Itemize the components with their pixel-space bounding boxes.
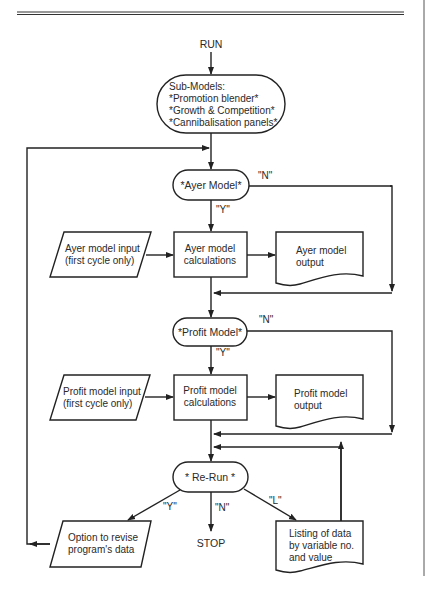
ayer-no-label: "N" xyxy=(258,170,273,181)
svg-text:Option to revise: Option to revise xyxy=(68,532,138,543)
svg-text:output: output xyxy=(294,400,322,411)
profit-input: Profit model input (first cycle only) xyxy=(50,375,150,420)
rerun-n-label: "N" xyxy=(215,502,230,513)
svg-text:Ayer model: Ayer model xyxy=(296,245,346,256)
ayer-input: Ayer model input (first cycle only) xyxy=(50,232,151,277)
start-label: RUN xyxy=(200,38,223,50)
svg-text:Profit model: Profit model xyxy=(183,385,236,396)
data-listing-output: Listing of data by variable no. and valu… xyxy=(276,521,363,573)
flowchart: RUN Sub-Models: *Promotion blender* *Gro… xyxy=(0,0,428,594)
svg-text:Profit model: Profit model xyxy=(294,388,347,399)
svg-text:*Profit Model*: *Profit Model* xyxy=(178,326,242,338)
svg-text:*Cannibalisation panels*: *Cannibalisation panels* xyxy=(169,117,278,128)
svg-text:Profit model input: Profit model input xyxy=(63,386,141,397)
svg-text:*Growth & Competition*: *Growth & Competition* xyxy=(169,105,275,116)
svg-text:*Ayer Model*: *Ayer Model* xyxy=(180,179,241,191)
svg-text:Ayer model: Ayer model xyxy=(185,243,235,254)
svg-text:program's data: program's data xyxy=(68,544,135,555)
submodels-terminal: Sub-Models: *Promotion blender* *Growth … xyxy=(157,75,285,133)
svg-text:* Re-Run *: * Re-Run * xyxy=(185,471,235,483)
header-rule xyxy=(17,12,404,15)
rerun-l-label: "L" xyxy=(269,495,282,506)
profit-decision: *Profit Model* xyxy=(173,318,247,346)
stop-label: STOP xyxy=(197,537,225,549)
revise-data-option: Option to revise program's data xyxy=(50,521,151,567)
profit-calculations: Profit model calculations xyxy=(174,375,247,420)
svg-text:by variable no.: by variable no. xyxy=(289,540,354,551)
svg-text:Sub-Models:: Sub-Models: xyxy=(169,81,225,92)
svg-text:calculations: calculations xyxy=(184,397,236,408)
profit-output: Profit model output xyxy=(276,375,363,429)
profit-yes-label: "Y" xyxy=(216,347,230,358)
svg-text:output: output xyxy=(296,257,324,268)
ayer-decision: *Ayer Model* xyxy=(173,170,249,200)
svg-text:(first cycle only): (first cycle only) xyxy=(63,398,132,409)
profit-no-label: "N" xyxy=(259,314,274,325)
rerun-y-label: "Y" xyxy=(163,501,177,512)
svg-text:calculations: calculations xyxy=(184,255,236,266)
svg-text:and value: and value xyxy=(289,552,333,563)
ayer-calculations: Ayer model calculations xyxy=(174,232,247,277)
ayer-yes-label: "Y" xyxy=(216,204,230,215)
rerun-decision: * Re-Run * xyxy=(173,462,248,492)
ayer-output: Ayer model output xyxy=(276,232,363,286)
svg-text:(first cycle only): (first cycle only) xyxy=(65,255,134,266)
svg-text:Listing of data: Listing of data xyxy=(289,528,352,539)
svg-text:*Promotion blender*: *Promotion blender* xyxy=(169,93,259,104)
svg-text:Ayer model input: Ayer model input xyxy=(65,243,140,254)
